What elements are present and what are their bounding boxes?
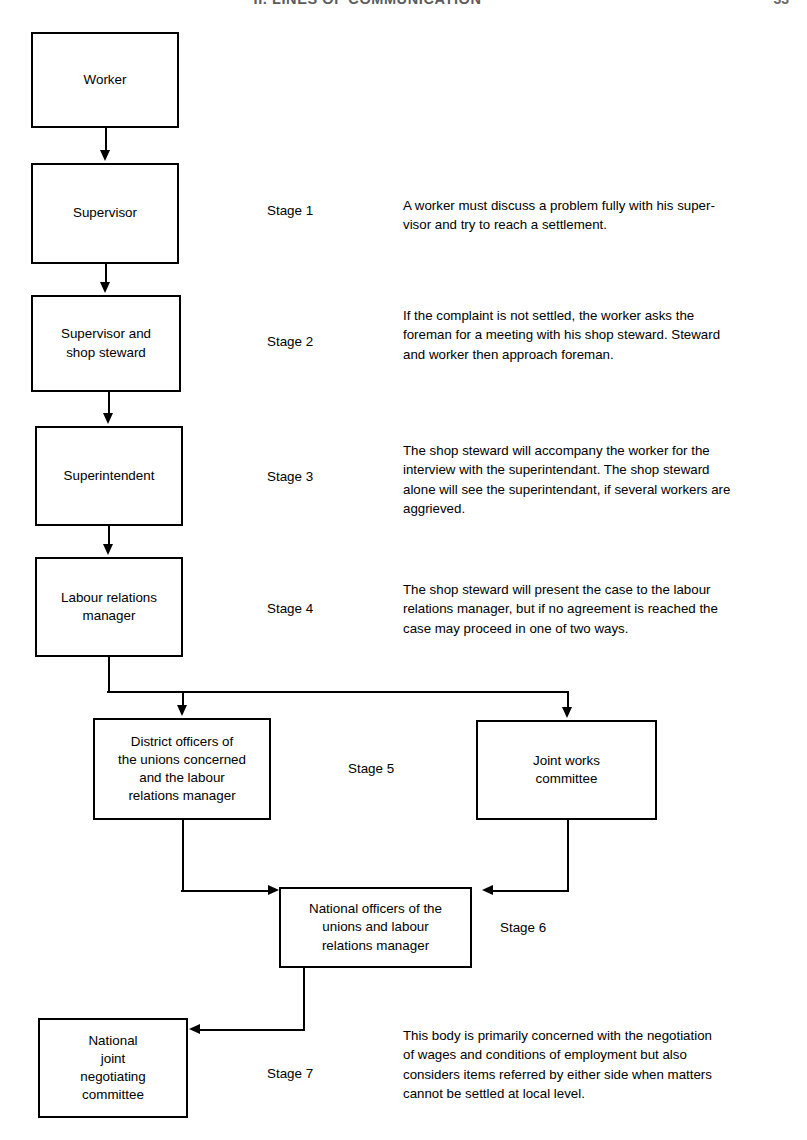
node-joint-works-committee[interactable]: Joint works committee xyxy=(476,720,657,820)
node-district-officers[interactable]: District officers of the unions concerne… xyxy=(93,718,271,820)
node-worker-label: Worker xyxy=(84,71,127,89)
stage-1-label: Stage 1 xyxy=(267,203,313,218)
stage-2-label: Stage 2 xyxy=(267,334,313,349)
arrow-superintendent-to-labour-manager xyxy=(103,544,113,555)
connector-branch-bus xyxy=(107,691,568,693)
connector-joint-works-left xyxy=(493,890,568,892)
stage-4-description: The shop steward will present the case t… xyxy=(403,580,782,638)
node-labour-relations-manager-label: Labour relations manager xyxy=(61,589,157,625)
arrow-worker-to-supervisor xyxy=(100,150,110,161)
node-superintendent-label: Superintendent xyxy=(64,467,155,485)
stage-4-label: Stage 4 xyxy=(267,601,313,616)
connector-joint-works-down xyxy=(567,820,569,892)
connector-labour-manager-dropdown xyxy=(108,657,110,693)
node-national-officers[interactable]: National officers of the unions and labo… xyxy=(279,887,472,968)
stage-6-label: Stage 6 xyxy=(500,920,546,935)
node-supervisor-and-shop-steward[interactable]: Supervisor and shop steward xyxy=(31,295,181,392)
connector-national-officers-down xyxy=(303,968,305,1031)
stage-1-description: A worker must discuss a problem fully wi… xyxy=(403,196,782,235)
connector-national-officers-left xyxy=(200,1029,304,1031)
arrow-bus-to-district-officers xyxy=(177,705,187,716)
arrow-joint-works-to-national-officers xyxy=(482,885,493,895)
node-national-officers-label: National officers of the unions and labo… xyxy=(309,900,442,954)
arrow-to-national-joint-committee xyxy=(189,1024,200,1034)
arrow-district-officers-to-national-officers xyxy=(268,885,279,895)
page-number: 33 xyxy=(773,0,789,7)
stage-5-label: Stage 5 xyxy=(348,761,394,776)
node-superintendent[interactable]: Superintendent xyxy=(35,426,183,526)
connector-district-officers-right xyxy=(181,890,268,892)
page-canvas: II. LINES OF COMMUNICATION 33 Worker Sup… xyxy=(0,0,807,1140)
arrow-bus-to-joint-works-committee xyxy=(562,707,572,718)
arrow-steward-to-superintendent xyxy=(103,413,113,424)
running-head: II. LINES OF COMMUNICATION 33 xyxy=(0,0,807,7)
node-supervisor[interactable]: Supervisor xyxy=(31,163,179,264)
node-supervisor-and-shop-steward-label: Supervisor and shop steward xyxy=(61,325,151,361)
stage-2-description: If the complaint is not settled, the wor… xyxy=(403,306,782,364)
running-head-title: II. LINES OF COMMUNICATION xyxy=(0,0,735,7)
stage-7-label: Stage 7 xyxy=(267,1066,313,1081)
connector-district-officers-down xyxy=(182,820,184,892)
node-joint-works-committee-label: Joint works committee xyxy=(533,752,600,788)
node-labour-relations-manager[interactable]: Labour relations manager xyxy=(35,557,183,657)
node-district-officers-label: District officers of the unions concerne… xyxy=(118,733,246,805)
stage-3-label: Stage 3 xyxy=(267,469,313,484)
node-national-joint-negotiating-committee[interactable]: National joint negotiating committee xyxy=(38,1018,188,1118)
node-supervisor-label: Supervisor xyxy=(73,204,137,222)
node-worker[interactable]: Worker xyxy=(31,32,179,128)
connector-worker-to-supervisor xyxy=(105,128,107,152)
stage-7-description: This body is primarily concerned with th… xyxy=(403,1026,782,1104)
node-national-joint-negotiating-committee-label: National joint negotiating committee xyxy=(80,1032,146,1104)
stage-3-description: The shop steward will accompany the work… xyxy=(403,441,782,519)
arrow-supervisor-to-steward xyxy=(100,282,110,293)
